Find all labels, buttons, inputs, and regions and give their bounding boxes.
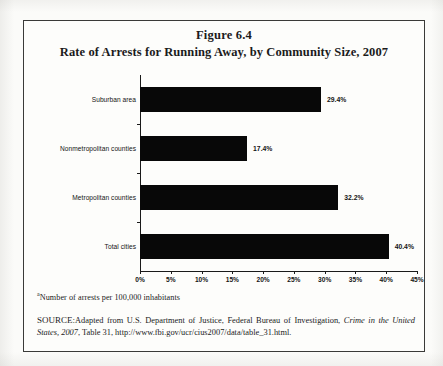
source-label: SOURCE: bbox=[37, 315, 75, 325]
bar-value-label: 29.4% bbox=[327, 96, 346, 103]
x-axis-tick bbox=[355, 271, 356, 274]
category-label: Metropolitan counties bbox=[72, 194, 136, 201]
x-axis-tick bbox=[171, 271, 172, 274]
x-axis-tick-label: 15% bbox=[226, 276, 239, 283]
x-axis-tick bbox=[325, 271, 326, 274]
bar bbox=[140, 136, 247, 161]
x-axis-tick-label: 40% bbox=[380, 276, 393, 283]
figure-number: Figure 6.4 bbox=[24, 28, 424, 43]
bar-value-label: 17.4% bbox=[253, 145, 272, 152]
x-axis-tick bbox=[386, 271, 387, 274]
x-axis-line bbox=[140, 271, 417, 272]
y-axis-tick bbox=[137, 222, 140, 223]
figure-title-block: Figure 6.4 Rate of Arrests for Running A… bbox=[24, 28, 424, 60]
bar bbox=[140, 234, 389, 259]
figure-footnote: aNumber of arrests per 100,000 inhabitan… bbox=[37, 291, 180, 302]
x-axis-tick bbox=[294, 271, 295, 274]
figure-frame: Figure 6.4 Rate of Arrests for Running A… bbox=[23, 20, 425, 352]
x-axis-tick-label: 25% bbox=[287, 276, 300, 283]
y-axis-tick bbox=[137, 124, 140, 125]
x-axis-tick bbox=[232, 271, 233, 274]
x-axis-tick-label: 35% bbox=[349, 276, 362, 283]
figure-source-note: SOURCE:Adapted from U.S. Department of J… bbox=[37, 315, 415, 338]
x-axis-tick-label: 10% bbox=[195, 276, 208, 283]
bar-chart-plot: Suburban areaNonmetropolitan countiesMet… bbox=[32, 75, 418, 275]
y-axis-tick bbox=[137, 173, 140, 174]
source-text-1: Adapted from U.S. Department of Justice,… bbox=[75, 316, 344, 325]
scanned-page: Figure 6.4 Rate of Arrests for Running A… bbox=[0, 0, 443, 366]
category-label: Suburban area bbox=[92, 96, 136, 103]
x-axis-tick-label: 20% bbox=[257, 276, 270, 283]
bar-value-label: 32.2% bbox=[344, 194, 363, 201]
category-axis-labels: Suburban areaNonmetropolitan countiesMet… bbox=[32, 75, 140, 271]
source-text-2: , Table 31, http://www.fbi.gov/ucr/cius2… bbox=[78, 328, 291, 337]
bar bbox=[140, 87, 321, 112]
x-axis-tick bbox=[417, 271, 418, 274]
footnote-text: Number of arrests per 100,000 inhabitant… bbox=[40, 293, 180, 302]
bar-value-label: 40.4% bbox=[395, 243, 414, 250]
x-axis-tick bbox=[263, 271, 264, 274]
figure-title: Rate of Arrests for Running Away, by Com… bbox=[24, 44, 424, 60]
x-axis-tick-label: 0% bbox=[135, 276, 145, 283]
category-label: Nonmetropolitan counties bbox=[60, 145, 136, 152]
bar bbox=[140, 185, 338, 210]
x-axis-tick-label: 5% bbox=[166, 276, 176, 283]
category-label: Total cities bbox=[105, 243, 136, 250]
x-axis-tick bbox=[140, 271, 141, 274]
x-axis-tick bbox=[202, 271, 203, 274]
x-axis-tick-label: 30% bbox=[318, 276, 331, 283]
x-axis-tick-label: 45% bbox=[410, 276, 423, 283]
